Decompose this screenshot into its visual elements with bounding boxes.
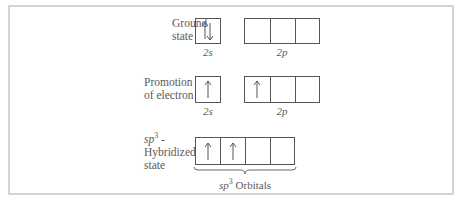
up-down-arrow-icon bbox=[196, 19, 220, 43]
ground-2s-label: 2s bbox=[195, 46, 221, 58]
label-line: Promotion bbox=[144, 76, 187, 89]
up-arrow-icon bbox=[196, 77, 220, 102]
orbitals-text: Orbitals bbox=[233, 179, 271, 191]
orbital-divider bbox=[270, 138, 271, 164]
label-line: of electron bbox=[144, 89, 187, 102]
label-line: Hybridized bbox=[144, 146, 196, 159]
dash: - bbox=[158, 133, 165, 145]
ground-2s-orbital bbox=[195, 18, 221, 44]
up-arrow-icon bbox=[196, 138, 220, 164]
orbital-divider bbox=[245, 138, 246, 164]
orbital-divider bbox=[220, 138, 221, 164]
promotion-label: Promotion of electron bbox=[144, 76, 187, 102]
up-arrow-icon bbox=[245, 77, 269, 102]
ground-2p-orbitals bbox=[244, 18, 320, 44]
promotion-2p-orbitals bbox=[244, 76, 320, 103]
promotion-2s-orbital bbox=[195, 76, 221, 103]
curly-brace-icon bbox=[193, 166, 297, 176]
hybridized-label: sp3 - Hybridized state bbox=[144, 129, 196, 172]
orbital-divider bbox=[295, 19, 296, 43]
label-line: sp3 - bbox=[144, 129, 196, 146]
orbital-divider bbox=[270, 19, 271, 43]
label-line: state bbox=[144, 159, 196, 172]
sp3-orbitals-label: sp3 Orbitals bbox=[195, 177, 295, 191]
orbital-divider bbox=[270, 77, 271, 102]
up-arrow-icon bbox=[221, 138, 245, 164]
sp-text: sp bbox=[219, 179, 229, 191]
promotion-2p-label: 2p bbox=[244, 105, 320, 117]
sp3-hybrid-orbitals bbox=[195, 137, 295, 165]
sp-text: sp bbox=[144, 133, 154, 145]
ground-2p-label: 2p bbox=[244, 46, 320, 58]
promotion-2s-label: 2s bbox=[195, 105, 221, 117]
orbital-divider bbox=[295, 77, 296, 102]
